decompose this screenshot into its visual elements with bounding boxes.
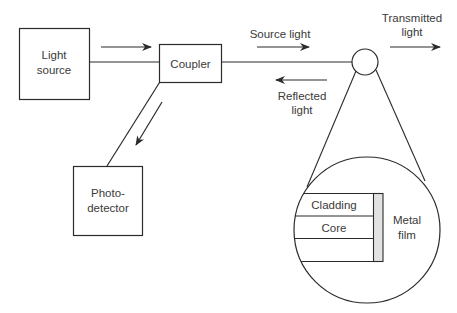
transmitted-light-label-line2: light	[401, 26, 423, 38]
coupler-block: Coupler	[160, 45, 222, 83]
light-source-label-line2: source	[37, 64, 72, 76]
source-light-label: Source light	[250, 28, 312, 40]
metal-film-label-line2: film	[398, 229, 416, 241]
reflected-light-label-line2: light	[291, 104, 313, 116]
photodetector-label-line2: detector	[87, 202, 129, 214]
fiber-coupler-to-photodetector	[107, 83, 160, 167]
photodetector-label-line1: Photo-	[91, 187, 125, 199]
light-source-block: Light source	[20, 29, 90, 100]
magnified-detail-view: Cladding Core Metal film	[290, 157, 440, 303]
reflected-light-label-line1: Reflected	[278, 90, 327, 102]
cladding-label: Cladding	[311, 199, 356, 211]
core-label: Core	[322, 222, 347, 234]
photodetector-block: Photo- detector	[74, 167, 143, 236]
coupler-label: Coupler	[170, 58, 210, 70]
metal-film-label-line1: Metal	[393, 214, 421, 226]
transmitted-light-label-line1: Transmitted	[382, 12, 442, 24]
return-arrow-icon	[136, 102, 162, 145]
metal-film-layer	[374, 194, 384, 262]
detail-circle	[294, 157, 440, 303]
light-source-label-line1: Light	[42, 49, 68, 61]
fiber-sensor-diagram: Light source Coupler Source light Reflec…	[0, 0, 457, 313]
